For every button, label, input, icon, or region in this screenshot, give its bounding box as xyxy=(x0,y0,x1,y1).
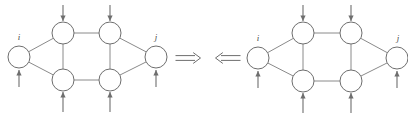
graph-edge xyxy=(29,38,54,51)
graph-node-j xyxy=(145,46,167,68)
graph-node xyxy=(52,69,74,91)
graph-edge xyxy=(361,38,388,52)
flow-arrow-head xyxy=(348,16,353,22)
flow-arrow-inflow-top-left xyxy=(300,5,305,21)
graph-edge xyxy=(361,63,387,76)
graph-node xyxy=(292,22,314,44)
graph-edge xyxy=(29,62,54,75)
flow-arrow-head xyxy=(16,70,21,76)
flow-arrow-inflow-top-left xyxy=(60,5,65,21)
flow-arrow-inflow-top-right xyxy=(107,5,112,21)
source-graph-edges xyxy=(29,33,147,80)
node-label-i: i xyxy=(257,33,260,43)
double-arrow-head xyxy=(194,53,201,63)
flow-arrow-head xyxy=(394,71,399,77)
node-label-j: j xyxy=(396,33,400,43)
flow-arrow-inflow-node-j xyxy=(394,71,399,88)
source-graph-nodes xyxy=(8,22,167,91)
flow-arrow-head xyxy=(300,93,305,99)
graph-node-j xyxy=(386,47,408,69)
graph-edge xyxy=(268,38,294,52)
result-graph-flow-arrows xyxy=(255,5,399,113)
result-graph: ij xyxy=(247,5,408,113)
flow-arrow-inflow-node-i xyxy=(255,71,260,88)
flow-arrow-inflow-bottom-left xyxy=(60,92,65,112)
flow-arrow-inflow-bottom-right xyxy=(348,93,353,113)
flow-arrow-head xyxy=(60,16,65,22)
flow-arrow-head xyxy=(107,16,112,22)
graph-node xyxy=(340,22,362,44)
flow-arrow-head xyxy=(107,92,112,98)
node-label-j: j xyxy=(154,32,158,42)
graph-node xyxy=(52,22,74,44)
source-graph: ij xyxy=(8,5,167,112)
graph-transformation-figure: ij ij xyxy=(0,0,408,117)
flow-arrow-head xyxy=(255,71,260,77)
flow-arrow-inflow-bottom-right xyxy=(107,92,112,112)
graph-node-i xyxy=(247,47,269,69)
flow-arrow-head xyxy=(153,70,158,76)
figure-canvas: ij ij xyxy=(0,0,408,117)
double-arrow-head xyxy=(216,53,223,63)
graph-node xyxy=(99,22,121,44)
flow-arrow-inflow-node-i xyxy=(16,70,21,87)
graph-edge xyxy=(120,38,146,52)
graph-node xyxy=(292,70,314,92)
result-graph-edges xyxy=(268,33,388,81)
graph-edge xyxy=(120,62,146,75)
node-label-i: i xyxy=(18,32,21,42)
flow-arrow-head xyxy=(60,92,65,98)
graph-node xyxy=(99,69,121,91)
result-graph-node-labels: ij xyxy=(257,33,400,43)
flow-arrow-inflow-bottom-left xyxy=(300,93,305,113)
relation-symbols xyxy=(176,53,241,63)
graph-edge xyxy=(268,63,293,76)
flow-arrow-inflow-node-j xyxy=(153,70,158,87)
flow-arrow-head xyxy=(348,93,353,99)
implies-right-symbol xyxy=(176,53,201,63)
implies-left-symbol xyxy=(216,53,241,63)
graph-node xyxy=(340,70,362,92)
flow-arrow-inflow-top-right xyxy=(348,5,353,21)
flow-arrow-head xyxy=(300,16,305,22)
graph-node-i xyxy=(8,46,30,68)
source-graph-flow-arrows xyxy=(16,5,158,112)
